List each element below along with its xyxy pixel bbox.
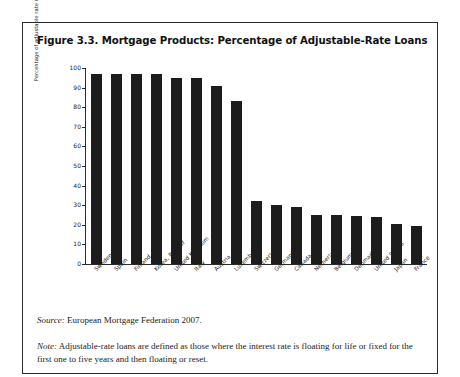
bar — [211, 86, 222, 264]
bar — [111, 74, 122, 264]
y-axis-tick-mark — [82, 244, 85, 245]
bar — [331, 215, 342, 264]
source-label: Source: — [37, 315, 65, 325]
bar — [311, 215, 322, 264]
y-axis-tick-mark — [82, 127, 85, 128]
note-block: Note: Adjustable-rate loans are defined … — [37, 340, 429, 365]
bar — [351, 216, 362, 264]
figure-title: Figure 3.3. Mortgage Products: Percentag… — [37, 35, 427, 46]
y-axis-tick-mark — [82, 186, 85, 187]
y-axis-tick-label: 10 — [73, 240, 81, 247]
source-text: European Mortgage Federation 2007. — [65, 315, 202, 325]
y-axis-title: Percentage of adjustable rate mortgages — [33, 0, 39, 102]
y-axis-tick-label: 70 — [73, 123, 81, 130]
bar — [131, 74, 142, 264]
bar — [91, 74, 102, 264]
bar-series: SwedenSpainFinlandKorea, Rep. ofUnited K… — [86, 68, 427, 264]
y-axis-tick-label: 30 — [73, 201, 81, 208]
bar — [291, 207, 302, 264]
bar — [171, 78, 182, 264]
chart-plot-area: Percentage of adjustable rate mortgages … — [59, 68, 427, 280]
bar — [251, 201, 262, 264]
y-axis-tick-label: 40 — [73, 182, 81, 189]
y-axis-tick-label: 90 — [73, 84, 81, 91]
bar — [371, 217, 382, 264]
y-axis-tick-mark — [82, 146, 85, 147]
y-axis-tick-mark — [82, 88, 85, 89]
y-axis-tick-mark — [82, 264, 85, 265]
bar — [191, 78, 202, 264]
bar — [391, 224, 402, 264]
source-line: Source: European Mortgage Federation 200… — [37, 315, 202, 325]
y-axis-tick-label: 50 — [73, 162, 81, 169]
bar — [151, 74, 162, 264]
y-axis-tick-label: 0 — [77, 260, 81, 267]
figure-panel: Figure 3.3. Mortgage Products: Percentag… — [22, 22, 438, 374]
y-axis-tick-label: 100 — [70, 64, 81, 71]
bar — [271, 205, 282, 264]
note-label: Note: — [37, 341, 57, 351]
y-axis-tick-mark — [82, 107, 85, 108]
y-axis-tick-mark — [82, 205, 85, 206]
y-axis-tick-label: 80 — [73, 103, 81, 110]
y-axis-tick-label: 60 — [73, 142, 81, 149]
y-axis-tick-mark — [82, 68, 85, 69]
note-text: Adjustable-rate loans are defined as tho… — [37, 341, 413, 364]
y-axis-tick-label: 20 — [73, 221, 81, 228]
y-axis-tick-mark — [82, 166, 85, 167]
bar — [231, 101, 242, 264]
y-axis-tick-mark — [82, 225, 85, 226]
